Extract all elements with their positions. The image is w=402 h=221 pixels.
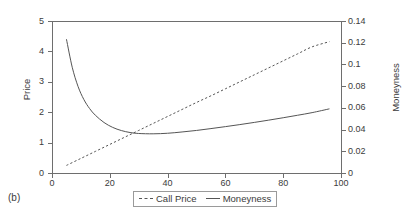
x-axis-tick-label: 80	[268, 179, 298, 188]
plot-canvas	[52, 21, 341, 173]
left-axis-tick-label: 4	[14, 47, 44, 56]
dashed-line-swatch-icon	[139, 196, 153, 202]
legend-entry-moneyness: Moneyness	[206, 193, 272, 204]
right-axis-tick-label: 0.04	[348, 125, 382, 134]
right-axis-tick-label: 0.06	[348, 103, 382, 112]
right-axis-tick	[342, 173, 346, 174]
left-axis-tick-label: 1	[14, 138, 44, 147]
right-axis-title: Moneyness	[390, 48, 401, 128]
right-axis-tick	[342, 108, 346, 109]
x-axis-tick-label: 60	[210, 179, 240, 188]
right-axis-tick-label: 0.08	[348, 82, 382, 91]
series-call-price-line	[66, 42, 329, 166]
right-axis-tick	[342, 130, 346, 131]
solid-line-swatch-icon	[206, 196, 220, 202]
bottom-axis-line	[52, 173, 342, 174]
right-axis-tick	[342, 21, 346, 22]
legend-label-call-price: Call Price	[156, 193, 197, 204]
left-axis-title: Price	[21, 60, 32, 120]
right-axis-tick	[342, 151, 346, 152]
left-axis-tick-label: 0	[14, 169, 44, 178]
right-axis-tick-label: 0.12	[348, 38, 382, 47]
figure-panel-b: 01234500.020.040.060.080.10.120.14020406…	[0, 0, 402, 221]
chart-legend: Call Price Moneyness	[133, 191, 277, 207]
left-axis-tick-label: 5	[14, 17, 44, 26]
panel-caption: (b)	[8, 192, 20, 203]
legend-entry-call-price: Call Price	[139, 193, 197, 204]
series-moneyness-line	[66, 39, 329, 134]
right-axis-tick	[342, 43, 346, 44]
x-axis-tick-label: 20	[95, 179, 125, 188]
right-axis-tick-label: 0.02	[348, 147, 382, 156]
right-axis-tick	[342, 64, 346, 65]
right-axis-tick-label: 0.1	[348, 60, 382, 69]
right-axis-tick	[342, 86, 346, 87]
x-axis-tick-label: 100	[326, 179, 356, 188]
right-axis-tick-label: 0.14	[348, 17, 382, 26]
x-axis-tick-label: 40	[153, 179, 183, 188]
legend-label-moneyness: Moneyness	[223, 193, 272, 204]
right-axis-tick-label: 0	[348, 169, 382, 178]
x-axis-tick-label: 0	[37, 179, 67, 188]
